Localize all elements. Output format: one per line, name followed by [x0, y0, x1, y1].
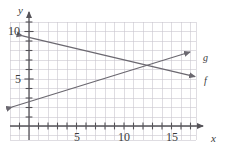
y-axis-label: y	[18, 5, 23, 16]
function-curves	[12, 36, 195, 107]
curve-f	[23, 36, 196, 77]
y-tick-label-5: 5	[15, 73, 21, 85]
curve-label-f: f	[204, 76, 207, 86]
x-tick-label-10: 10	[118, 131, 130, 143]
graph-figure: 10 5 5 10 15 y x g f	[0, 0, 229, 154]
x-tick-label-5: 5	[74, 131, 80, 143]
x-tick-label-15: 15	[166, 131, 178, 143]
coordinate-plane	[0, 0, 229, 154]
curve-label-g: g	[203, 53, 208, 63]
y-tick-label-10: 10	[8, 25, 20, 37]
x-axis-label: x	[211, 133, 216, 144]
